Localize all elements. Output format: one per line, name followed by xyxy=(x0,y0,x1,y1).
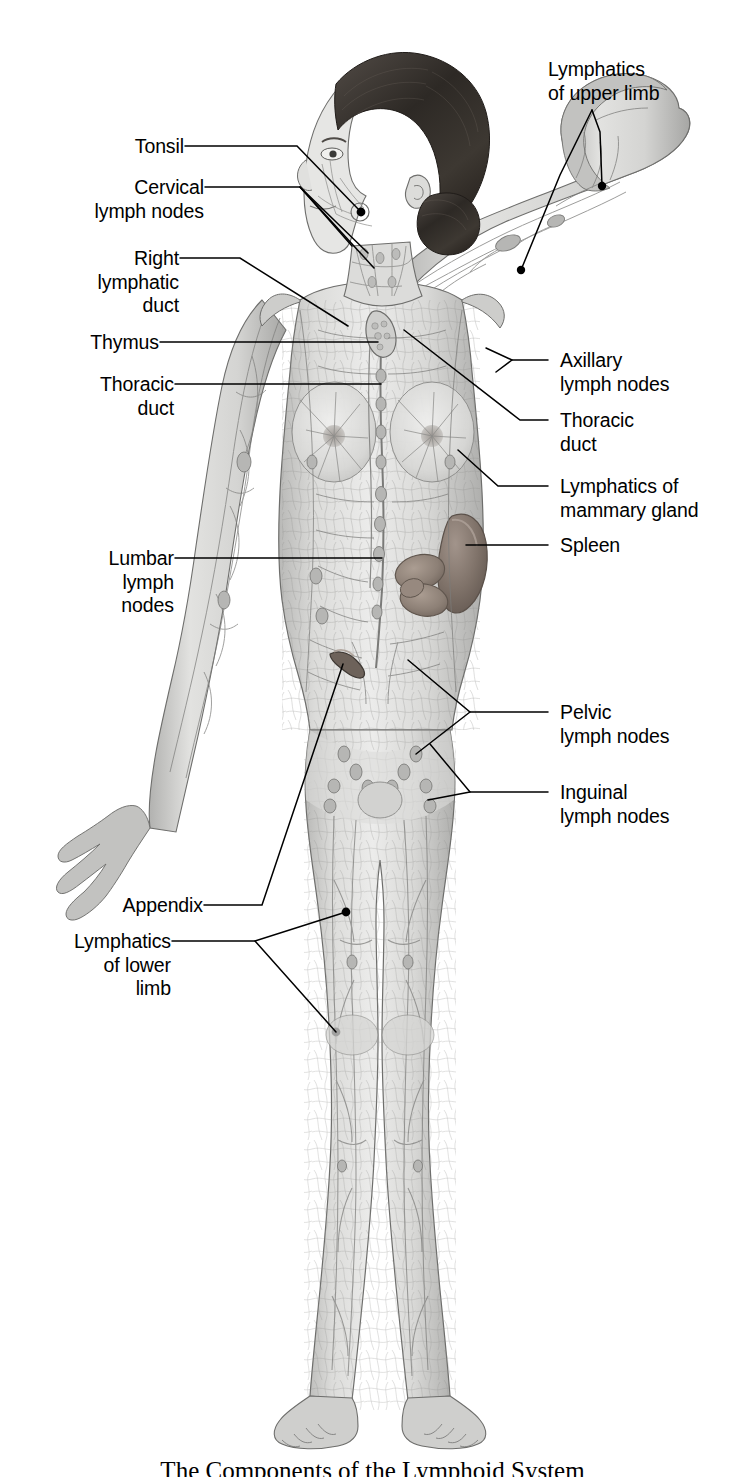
left-arm-node-a xyxy=(237,452,251,472)
label-lumbar-lymph-nodes: Lumbar lymph nodes xyxy=(108,547,174,618)
label-pelvic-lymph-nodes: Pelvic lymph nodes xyxy=(560,701,669,748)
label-right-lymphatic-duct: Right lymphatic duct xyxy=(98,247,179,318)
label-thymus: Thymus xyxy=(90,331,159,355)
label-inguinal-lymph-nodes: Inguinal lymph nodes xyxy=(560,781,669,828)
legs-vessel-mesh xyxy=(304,730,456,1410)
torso xyxy=(260,282,504,730)
label-tonsil: Tonsil xyxy=(135,135,184,159)
label-lymphatics-of-upper-limb: Lymphatics of upper limb xyxy=(548,58,659,105)
label-lymphatics-of-lower-limb: Lymphatics of lower limb xyxy=(74,930,171,1001)
label-axillary-lymph-nodes: Axillary lymph nodes xyxy=(560,349,669,396)
knee-left xyxy=(326,1015,378,1055)
label-cervical-lymph-nodes: Cervical lymph nodes xyxy=(95,176,204,223)
label-appendix: Appendix xyxy=(122,894,203,918)
label-thoracic-duct: Thoracic duct xyxy=(100,373,174,420)
pubic-region xyxy=(358,782,402,818)
lymphoid-system-figure: Tonsil Cervical lymph nodes Right lympha… xyxy=(0,0,745,1477)
lower-body xyxy=(274,730,486,1449)
left-arm-node-b xyxy=(218,591,230,609)
label-lymphatics-of-mammary-gland: Lymphatics of mammary gland xyxy=(560,475,699,522)
hair-bun xyxy=(417,193,480,255)
label-spleen: Spleen xyxy=(560,534,620,558)
pupil xyxy=(329,150,336,157)
knee-right xyxy=(382,1015,434,1055)
figure-caption: The Components of the Lymphoid System xyxy=(0,1458,745,1477)
label-thoracic-duct-right: Thoracic duct xyxy=(560,409,634,456)
neck xyxy=(344,242,422,306)
